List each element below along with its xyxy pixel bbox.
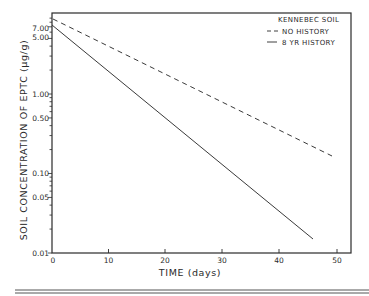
y-tick-labels: 7.00 5.00 1.00 0.50 0.10 0.05 0.01	[32, 24, 49, 258]
x-ticks	[109, 249, 338, 253]
x-tick-label: 30	[217, 256, 227, 265]
y-tick-label: 0.05	[32, 193, 49, 202]
plot-frame	[52, 13, 351, 253]
x-tick-label: 10	[104, 256, 114, 265]
x-tick-label: 20	[160, 256, 170, 265]
series-8yr-history-line	[52, 25, 313, 239]
y-axis-title: SOIL CONCENTRATION OF EPTC (μg/g)	[18, 40, 29, 241]
legend-item-label: 8 YR HISTORY	[282, 39, 335, 47]
x-tick-label: 40	[274, 256, 284, 265]
x-axis-title: TIME (days)	[158, 267, 221, 278]
legend-item-label: NO HISTORY	[282, 28, 330, 36]
x-tick-label: 0	[51, 256, 56, 265]
y-tick-label: 0.10	[32, 169, 49, 178]
y-tick-label: 0.01	[32, 249, 49, 258]
y-tick-label: 1.00	[32, 90, 49, 99]
y-tick-label: 0.50	[32, 114, 49, 123]
x-tick-labels: 0 10 20 30 40 50	[51, 256, 342, 265]
chart-figure: 7.00 5.00 1.00 0.50 0.10 0.05 0.01 0 10 …	[0, 0, 369, 296]
y-tick-label: 5.00	[32, 33, 49, 42]
legend: KENNEBEC SOIL NO HISTORY 8 YR HISTORY	[267, 16, 339, 47]
legend-title: KENNEBEC SOIL	[278, 16, 339, 24]
x-tick-label: 50	[332, 256, 342, 265]
